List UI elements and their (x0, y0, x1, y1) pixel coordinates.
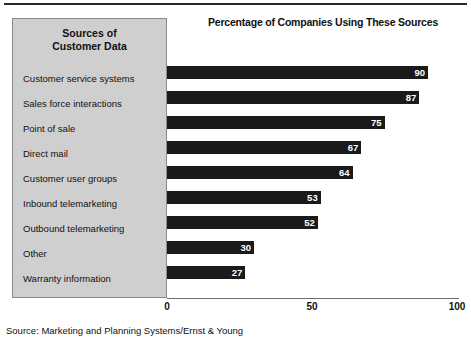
bar-row: 27 (167, 260, 457, 285)
category-label: Customer user groups (13, 166, 166, 191)
x-axis-tick-label: 50 (306, 301, 317, 312)
category-label: Inbound telemarketing (13, 191, 166, 216)
bar-row: 64 (167, 160, 457, 185)
category-panel-header: Sources of Customer Data (13, 27, 166, 53)
bar: 64 (167, 166, 353, 179)
bar-value-label: 90 (414, 66, 425, 79)
category-label: Outbound telemarketing (13, 216, 166, 241)
chart-title: Percentage of Companies Using These Sour… (178, 16, 468, 28)
x-axis-tick-labels: 050100 (0, 301, 471, 317)
category-panel: Sources of Customer Data Customer servic… (12, 18, 167, 298)
bar: 30 (167, 241, 254, 254)
bar: 90 (167, 66, 428, 79)
bar-row: 52 (167, 210, 457, 235)
bar-value-label: 67 (348, 141, 359, 154)
x-axis-tick-label: 100 (449, 301, 466, 312)
x-axis-tick-label: 0 (164, 301, 170, 312)
bar: 52 (167, 216, 318, 229)
bar: 27 (167, 266, 245, 279)
category-label: Other (13, 241, 166, 266)
bar-row: 30 (167, 235, 457, 260)
bar-value-label: 52 (304, 216, 315, 229)
bar: 75 (167, 116, 385, 129)
category-label: Direct mail (13, 141, 166, 166)
category-label: Customer service systems (13, 66, 166, 91)
category-panel-header-line1: Sources of (13, 27, 166, 40)
bar-row: 75 (167, 110, 457, 135)
category-label: Point of sale (13, 116, 166, 141)
bar-row: 67 (167, 135, 457, 160)
bar-value-label: 30 (240, 241, 251, 254)
bar: 67 (167, 141, 361, 154)
top-rule (4, 3, 467, 5)
category-label: Warranty information (13, 266, 166, 291)
bar-value-label: 87 (406, 91, 417, 104)
bar: 87 (167, 91, 419, 104)
bar-row: 90 (167, 60, 457, 85)
bar-value-label: 75 (371, 116, 382, 129)
bar-value-label: 27 (232, 266, 243, 279)
bar-row: 53 (167, 185, 457, 210)
chart-figure: Percentage of Companies Using These Sour… (0, 0, 471, 347)
category-panel-header-line2: Customer Data (13, 40, 166, 53)
bar: 53 (167, 191, 321, 204)
bar-row: 87 (167, 85, 457, 110)
category-label-list: Customer service systemsSales force inte… (13, 66, 166, 291)
bar-value-label: 53 (307, 191, 318, 204)
plot-area: 908775676453523027 (167, 60, 457, 298)
x-axis-line (167, 298, 459, 299)
category-label: Sales force interactions (13, 91, 166, 116)
source-note: Source: Marketing and Planning Systems/E… (6, 325, 243, 336)
bar-value-label: 64 (339, 166, 350, 179)
